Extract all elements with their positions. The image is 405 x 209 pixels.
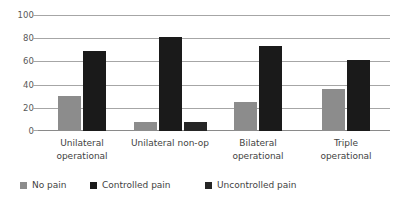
legend-swatch-icon xyxy=(90,182,97,189)
y-tick-label-40: 40 xyxy=(0,81,34,90)
bar-2-controlled-pain xyxy=(159,37,182,131)
y-axis: 100 80 60 40 20 0 xyxy=(0,0,34,140)
legend-item-no-pain[interactable]: No pain xyxy=(20,180,67,190)
bar-4-no-pain xyxy=(322,89,345,131)
legend-swatch-icon xyxy=(20,182,27,189)
bar-3-no-pain xyxy=(234,102,257,131)
bars-layer xyxy=(38,15,390,131)
y-tick-label-100: 100 xyxy=(0,11,34,20)
category-label-3-line-1: Bilateral xyxy=(214,137,302,150)
y-tick-label-0: 0 xyxy=(0,127,34,136)
y-tick-label-80: 80 xyxy=(0,34,34,43)
category-label-1: Unilateraloperational xyxy=(38,137,126,162)
bar-3-controlled-pain xyxy=(259,46,282,131)
bar-1-no-pain xyxy=(58,96,81,131)
legend-label: Uncontrolled pain xyxy=(217,180,297,190)
legend-label: No pain xyxy=(32,180,67,190)
y-tick-label-20: 20 xyxy=(0,104,34,113)
plot-area: 100 80 60 40 20 0 xyxy=(0,0,405,140)
bar-1-controlled-pain xyxy=(83,51,106,131)
x-axis-category-labels: UnilateraloperationalUnilateral non-opBi… xyxy=(38,137,390,171)
grouped-bar-chart: 100 80 60 40 20 0 UnilateraloperationalU… xyxy=(0,0,405,209)
category-label-2-line-1: Unilateral non-op xyxy=(126,137,214,150)
category-label-3-line-2: operational xyxy=(214,150,302,163)
y-tick-label-60: 60 xyxy=(0,57,34,66)
category-label-2: Unilateral non-op xyxy=(126,137,214,150)
category-label-3: Bilateraloperational xyxy=(214,137,302,162)
legend-item-uncontrolled-pain[interactable]: Uncontrolled pain xyxy=(205,180,297,190)
category-label-4-line-2: operational xyxy=(302,150,390,163)
category-label-4: Tripleoperational xyxy=(302,137,390,162)
legend-item-controlled-pain[interactable]: Controlled pain xyxy=(90,180,171,190)
bar-2-no-pain xyxy=(134,122,157,131)
category-label-1-line-1: Unilateral xyxy=(38,137,126,150)
legend-swatch-icon xyxy=(205,182,212,189)
bar-4-controlled-pain xyxy=(347,60,370,131)
bar-2-uncontrolled-pain xyxy=(184,122,207,131)
category-label-4-line-1: Triple xyxy=(302,137,390,150)
category-label-1-line-2: operational xyxy=(38,150,126,163)
legend-label: Controlled pain xyxy=(102,180,171,190)
chart-legend: No painControlled painUncontrolled pain xyxy=(0,180,405,200)
